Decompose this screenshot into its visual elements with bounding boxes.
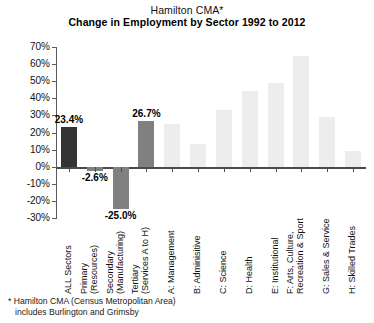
category-label: G: Sales & Service [321,218,331,294]
y-axis-tick-label: -10% [27,177,50,190]
category-label-line: G: Sales & Service [321,218,331,294]
y-axis-tick-label: 70% [30,40,50,53]
category-label-line: E: Institutional [270,237,280,294]
y-axis-tick [52,64,57,65]
category-label-line: C: Science [218,250,228,294]
bar [164,124,180,167]
x-axis-tick [327,167,328,172]
category-label: A: Management [166,230,176,294]
y-axis-tick-label: 20% [30,126,50,139]
chart-title-block: Hamilton CMA* Change in Employment by Se… [0,4,374,28]
employment-change-chart: Hamilton CMA* Change in Employment by Se… [0,0,374,323]
category-label: Secondary(Manufacturing) [105,231,125,294]
y-axis-tick-label: -20% [27,194,50,207]
footnote-line-1: * Hamilton CMA (Census Metropolitan Area… [8,296,176,306]
x-axis-tick [198,167,199,172]
category-label: E: Institutional [270,237,280,294]
category-label-line: (Services A to H) [140,227,150,294]
y-axis-tick [52,150,57,151]
x-axis-tick [353,167,354,172]
x-axis-tick [276,167,277,172]
chart-supertitle: Hamilton CMA* [0,4,374,16]
x-axis-tick [301,167,302,172]
y-axis-tick-label: 0% [36,160,50,173]
category-label-line: Secondary [105,251,115,294]
y-axis-tick [52,167,57,168]
category-label: Tertiary(Services A to H) [130,227,150,294]
bar-value-label: 23.4% [44,114,93,125]
y-axis-tick-label: 50% [30,74,50,87]
y-axis-tick [52,47,57,48]
bar [319,117,335,167]
category-label-line: ALL Sectors [63,245,73,294]
x-axis-tick [146,167,147,172]
bar [138,121,154,167]
category-label: Primary(Resources) [79,245,99,294]
bar-value-label: -25.0% [96,210,145,221]
chart-title: Change in Employment by Sector 1992 to 2… [0,16,374,28]
bar [61,127,77,167]
category-label-line: D: Health [244,256,254,294]
bar [113,167,129,210]
y-axis-tick [52,98,57,99]
category-label-line: A: Management [166,230,176,294]
category-label-line: Recreation & Sport [295,218,305,294]
y-axis-tick-label: 10% [30,143,50,156]
category-label-line: Tertiary [130,264,140,294]
y-axis-tick [52,184,57,185]
category-label: H: Skilled Trades [347,226,357,294]
category-label: F: Arts, Culture,Recreation & Sport [285,218,305,294]
footnote-line-2: includes Burlington and Grimsby [8,307,308,318]
category-label: ALL Sectors [63,245,73,294]
category-label-line: B: Adminisitive [192,235,202,294]
x-axis-tick [224,167,225,172]
category-label-line: H: Skilled Trades [347,226,357,294]
category-label: C: Science [218,250,228,294]
bar [190,144,206,166]
y-axis-tick [52,201,57,202]
y-axis-tick [52,81,57,82]
chart-footnote: * Hamilton CMA (Census Metropolitan Area… [8,296,308,317]
x-axis-tick [172,167,173,172]
bar-value-label: 26.7% [122,108,171,119]
category-label: D: Health [244,256,254,294]
y-axis-tick [52,218,57,219]
y-axis-tick-label: -30% [27,211,50,224]
y-axis-tick-label: 40% [30,91,50,104]
category-axis-labels: ALL SectorsPrimary(Resources)Secondary(M… [56,222,366,294]
y-axis-tick [52,133,57,134]
plot-area: 70%60%50%40%30%20%10%0%-10%-20%-30%23.4%… [56,47,366,218]
category-label-line: F: Arts, Culture, [285,231,295,294]
y-axis-tick-label: 60% [30,57,50,70]
bar [293,56,309,167]
bar [345,151,361,166]
bar [242,91,258,166]
category-label-line: (Resources) [89,245,99,294]
category-label-line: Primary [79,263,89,294]
bar [216,110,232,166]
x-axis-tick [250,167,251,172]
bar [268,83,284,167]
category-label: B: Adminisitive [192,235,202,294]
category-label-line: (Manufacturing) [115,231,125,294]
x-axis-tick [121,167,122,172]
